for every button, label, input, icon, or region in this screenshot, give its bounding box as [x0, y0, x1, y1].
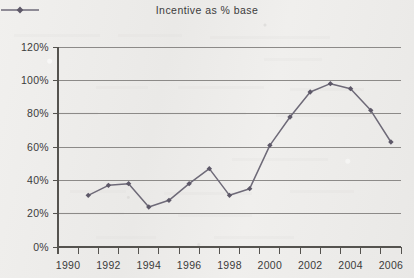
x-axis-tick-label: 2006: [379, 259, 404, 271]
x-axis-tick-label: 1992: [96, 259, 121, 271]
x-axis-tick-label: 2004: [338, 259, 363, 271]
data-point-marker: 1992.5: 37%: [106, 183, 111, 188]
plot-area: 0%20%40%60%80%100%120%199019921994199619…: [0, 0, 414, 278]
x-axis-tick-label: 2000: [258, 259, 283, 271]
y-axis-tick-label: 120%: [21, 41, 49, 53]
y-axis-tick-label: 0%: [33, 241, 49, 253]
y-axis-tick-label: 100%: [21, 74, 49, 86]
x-axis-tick-label: 2002: [298, 259, 323, 271]
x-axis-tick-label: 1994: [137, 259, 162, 271]
data-point-marker: 1991.5: 31%: [86, 193, 91, 198]
data-point-marker: 1999.5: 35%: [247, 186, 252, 191]
x-axis-tick-label: 1990: [56, 259, 81, 271]
line-chart: Incentive as % base 0%20%40%60%80%100%12…: [0, 0, 414, 278]
y-axis-tick-label: 20%: [27, 207, 49, 219]
x-axis-tick-label: 1996: [177, 259, 202, 271]
y-axis-tick-label: 60%: [27, 141, 49, 153]
series-line: [88, 84, 391, 207]
y-axis-tick-label: 80%: [27, 107, 49, 119]
y-axis-tick-label: 40%: [27, 174, 49, 186]
data-point-marker: 2003.5: 98%: [328, 81, 333, 86]
x-axis-tick-label: 1998: [217, 259, 242, 271]
